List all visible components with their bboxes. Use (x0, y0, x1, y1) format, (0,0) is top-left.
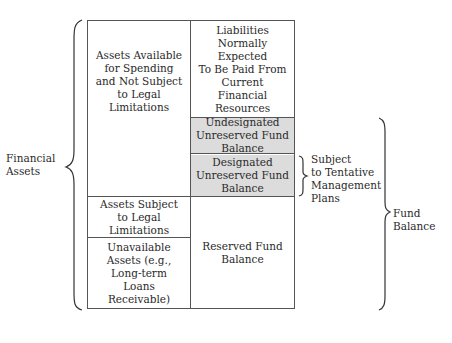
liabilities-cell: Liabilities Normally Expected To Be Paid… (191, 21, 294, 117)
assets-available-cell: Assets Available for Spending and Not Su… (88, 21, 190, 141)
tentative-plans-label: Subject to Tentative Management Plans (311, 153, 381, 205)
assets-subject-to-legal-limitations-cell: Assets Subject to Legal Limitations (88, 197, 190, 237)
designated-unreserved-fund-balance-cell: Designated Unreserved Fund Balance (191, 155, 294, 197)
financial-assets-label: Financial Assets (6, 152, 55, 178)
fund-balance-brace-icon (378, 118, 392, 310)
financial-assets-brace-icon (60, 20, 90, 310)
undesignated-unreserved-fund-balance-cell: Undesignated Unreserved Fund Balance (191, 117, 294, 154)
fund-balance-label: Fund Balance (393, 207, 435, 233)
unavailable-assets-cell: Unavailable Assets (e.g., Long-term Loan… (88, 238, 190, 308)
tentative-plans-brace-icon (298, 156, 308, 196)
reserved-fund-balance-cell: Reserved Fund Balance (191, 197, 294, 308)
